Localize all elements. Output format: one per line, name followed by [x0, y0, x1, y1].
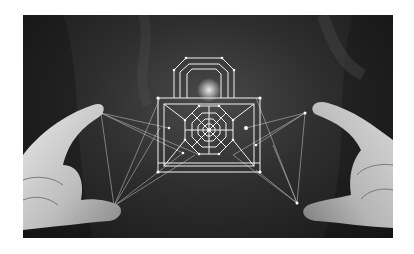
security-lock-photo: [23, 15, 393, 238]
network-lines: [101, 98, 305, 206]
padlock-icon: [158, 58, 260, 172]
photo-illustration: [23, 15, 393, 238]
